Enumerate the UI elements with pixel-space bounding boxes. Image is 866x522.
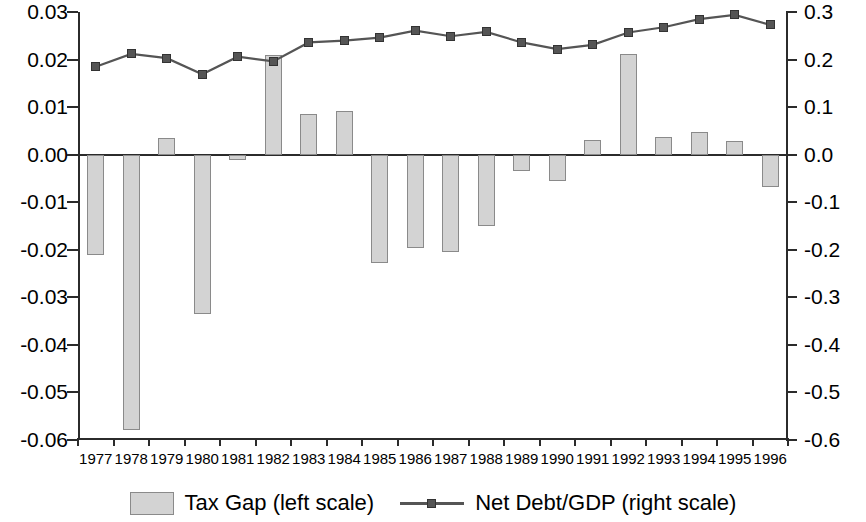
x-tick-label: 1993 xyxy=(646,450,682,468)
left-axis-labels: 0.030.020.010.00-0.01-0.02-0.03-0.04-0.0… xyxy=(0,12,72,440)
plot-area xyxy=(78,12,788,440)
x-tick xyxy=(361,438,363,446)
right-tick-label: -0.4 xyxy=(804,334,840,355)
right-tick xyxy=(786,201,797,203)
x-tick xyxy=(645,438,647,446)
left-tick xyxy=(67,249,78,251)
x-tick xyxy=(681,438,683,446)
left-tick-label: 0.01 xyxy=(27,96,68,117)
x-tick xyxy=(77,438,79,446)
left-tick-label: 0.02 xyxy=(27,49,68,70)
line-marker xyxy=(730,10,739,19)
legend-item-net-debt-gdp: Net Debt/GDP (right scale) xyxy=(400,492,736,514)
left-tick xyxy=(67,344,78,346)
right-tick-label: 0.2 xyxy=(804,49,833,70)
left-tick-label: 0.00 xyxy=(27,144,68,165)
line-marker xyxy=(411,26,420,35)
line-marker xyxy=(446,32,455,41)
left-tick xyxy=(67,391,78,393)
x-tick-label: 1980 xyxy=(185,450,221,468)
x-tick xyxy=(219,438,221,446)
x-tick xyxy=(468,438,470,446)
line-marker xyxy=(162,54,171,63)
left-tick xyxy=(67,201,78,203)
right-tick xyxy=(786,154,797,156)
x-tick xyxy=(326,438,328,446)
right-tick xyxy=(786,249,797,251)
x-tick xyxy=(255,438,257,446)
left-tick xyxy=(67,296,78,298)
x-tick xyxy=(432,438,434,446)
right-tick xyxy=(786,344,797,346)
left-tick-label: 0.03 xyxy=(27,1,68,22)
right-tick-label: -0.5 xyxy=(804,381,840,402)
x-tick-label: 1977 xyxy=(78,450,114,468)
chart-figure: 0.030.020.010.00-0.01-0.02-0.03-0.04-0.0… xyxy=(0,0,866,522)
line-marker xyxy=(127,49,136,58)
line-marker xyxy=(269,57,278,66)
legend-item-tax-gap: Tax Gap (left scale) xyxy=(130,492,375,515)
x-tick-label: 1978 xyxy=(114,450,150,468)
left-tick-label: -0.05 xyxy=(20,381,68,402)
line-marker xyxy=(588,40,597,49)
x-tick-label: 1983 xyxy=(291,450,327,468)
x-tick-label: 1987 xyxy=(433,450,469,468)
x-tick xyxy=(716,438,718,446)
line-marker xyxy=(375,33,384,42)
x-tick xyxy=(148,438,150,446)
right-tick-label: -0.1 xyxy=(804,191,840,212)
right-tick-label: 0.0 xyxy=(804,144,833,165)
x-tick-label: 1979 xyxy=(149,450,185,468)
x-tick-label: 1988 xyxy=(469,450,505,468)
line-series-net-debt-gdp xyxy=(78,12,788,440)
x-tick xyxy=(610,438,612,446)
x-tick xyxy=(539,438,541,446)
x-tick-label: 1986 xyxy=(398,450,434,468)
x-tick xyxy=(752,438,754,446)
x-tick-label: 1990 xyxy=(540,450,576,468)
line-marker xyxy=(517,38,526,47)
x-tick-label: 1981 xyxy=(220,450,256,468)
line-marker xyxy=(553,45,562,54)
x-tick-label: 1985 xyxy=(362,450,398,468)
x-tick xyxy=(787,438,789,446)
line-marker xyxy=(91,62,100,71)
x-tick xyxy=(184,438,186,446)
legend-label-tax-gap: Tax Gap (left scale) xyxy=(185,492,375,514)
line-marker xyxy=(482,27,491,36)
right-axis-labels: 0.30.20.10.0-0.1-0.2-0.3-0.4-0.5-0.6 xyxy=(794,12,866,440)
right-tick xyxy=(786,106,797,108)
x-tick xyxy=(574,438,576,446)
right-tick-label: -0.3 xyxy=(804,286,840,307)
left-tick-label: -0.03 xyxy=(20,286,68,307)
right-tick-label: 0.3 xyxy=(804,1,833,22)
line-marker xyxy=(233,52,242,61)
right-tick-label: -0.2 xyxy=(804,239,840,260)
chart-legend: Tax Gap (left scale) Net Debt/GDP (right… xyxy=(0,486,866,520)
left-tick xyxy=(67,106,78,108)
line-marker xyxy=(695,15,704,24)
legend-swatch-icon xyxy=(130,492,174,515)
right-tick xyxy=(786,11,797,13)
right-tick xyxy=(786,59,797,61)
left-tick-label: -0.02 xyxy=(20,239,68,260)
x-tick-label: 1994 xyxy=(682,450,718,468)
x-tick xyxy=(397,438,399,446)
x-tick xyxy=(113,438,115,446)
x-tick-label: 1984 xyxy=(327,450,363,468)
line-marker xyxy=(766,20,775,29)
x-axis-labels: 1977197819791980198119821983198419851986… xyxy=(78,450,788,472)
x-tick xyxy=(290,438,292,446)
left-tick xyxy=(67,59,78,61)
legend-line-icon xyxy=(400,497,464,509)
x-tick-label: 1989 xyxy=(504,450,540,468)
line-path-svg xyxy=(78,12,788,440)
x-tick-label: 1992 xyxy=(611,450,647,468)
line-marker xyxy=(340,36,349,45)
right-tick-label: -0.6 xyxy=(804,429,840,450)
x-tick-label: 1991 xyxy=(575,450,611,468)
line-marker xyxy=(659,23,668,32)
x-tick-label: 1995 xyxy=(717,450,753,468)
line-marker xyxy=(304,38,313,47)
left-tick xyxy=(67,11,78,13)
